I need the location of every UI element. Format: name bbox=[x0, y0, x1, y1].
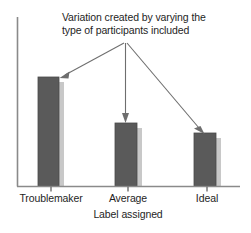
bar-ideal bbox=[194, 133, 216, 186]
annotation-text-line-1: Variation created by varying the bbox=[62, 11, 206, 24]
x-axis-label-troublemaker: Troublemaker bbox=[19, 192, 82, 204]
arrow-head-average bbox=[122, 113, 129, 123]
x-axis-label-ideal: Ideal bbox=[196, 192, 218, 204]
annotation-arrows bbox=[60, 43, 205, 134]
bar-average bbox=[115, 123, 137, 186]
x-axis-title: Label assigned bbox=[93, 208, 162, 220]
bar-chart-figure: Variation created by varying the type of… bbox=[0, 0, 251, 233]
arrow-line-troublemaker bbox=[65, 43, 124, 75]
annotation-text-line-2: type of participants included bbox=[62, 24, 189, 37]
bar-troublemaker bbox=[38, 77, 59, 186]
x-axis-label-average: Average bbox=[109, 192, 147, 204]
arrow-line-ideal bbox=[127, 43, 199, 128]
arrow-head-troublemaker bbox=[60, 72, 70, 79]
